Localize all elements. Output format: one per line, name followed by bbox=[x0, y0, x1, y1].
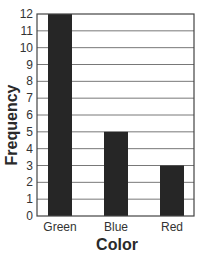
y-tick-label: 0 bbox=[26, 209, 33, 223]
y-tick-label: 12 bbox=[20, 7, 34, 21]
x-category-label: Blue bbox=[104, 220, 128, 234]
y-tick-label: 9 bbox=[26, 58, 33, 72]
y-tick-label: 1 bbox=[26, 192, 33, 206]
bar-green bbox=[48, 14, 72, 216]
y-tick-label: 3 bbox=[26, 159, 33, 173]
y-tick-label: 10 bbox=[20, 41, 34, 55]
x-axis-categories: GreenBlueRed bbox=[43, 220, 183, 234]
y-tick-label: 7 bbox=[26, 91, 33, 105]
x-axis-title: Color bbox=[96, 236, 138, 253]
y-tick-label: 6 bbox=[26, 108, 33, 122]
bar-blue bbox=[104, 132, 128, 216]
y-tick-label: 8 bbox=[26, 74, 33, 88]
y-tick-label: 4 bbox=[26, 142, 33, 156]
bar-red bbox=[160, 166, 184, 217]
y-tick-label: 11 bbox=[21, 24, 34, 38]
y-axis-title: Frequency bbox=[3, 84, 20, 165]
y-tick-label: 2 bbox=[26, 175, 33, 189]
x-category-label: Green bbox=[43, 220, 76, 234]
bar-chart: 0123456789101112 GreenBlueRed Frequency … bbox=[0, 0, 201, 253]
x-category-label: Red bbox=[161, 220, 183, 234]
y-tick-label: 5 bbox=[26, 125, 33, 139]
y-axis-ticks: 0123456789101112 bbox=[20, 7, 34, 223]
